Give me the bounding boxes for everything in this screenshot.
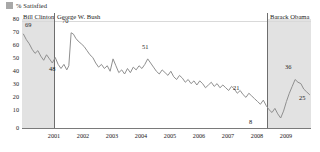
- x-tick: 2008: [251, 132, 263, 139]
- y-tick: 0: [2, 125, 19, 131]
- x-tick: 2004: [135, 132, 147, 139]
- x-tick: 2003: [106, 132, 118, 139]
- value-callout: 48: [49, 66, 55, 72]
- series-line-satisfied: [22, 19, 311, 129]
- value-callout: 70: [62, 18, 68, 24]
- y-tick: 20: [2, 94, 19, 100]
- value-callout: 8: [249, 119, 252, 125]
- x-tick: 2007: [222, 132, 234, 139]
- x-axis: 2001 2002 2003 2004 2005 2006 2007 2008 …: [22, 132, 311, 144]
- x-tick: 2002: [77, 132, 89, 139]
- y-tick: 80: [2, 16, 19, 22]
- value-callout: 21: [233, 85, 239, 91]
- value-callout: 36: [285, 64, 291, 70]
- x-tick: 2006: [193, 132, 205, 139]
- x-tick: 2005: [164, 132, 176, 139]
- x-tick: 2009: [280, 132, 292, 139]
- y-tick: 50: [2, 55, 19, 61]
- x-tick: 2001: [48, 132, 60, 139]
- value-callout: 51: [142, 44, 148, 50]
- value-callout: 69: [25, 22, 31, 28]
- y-tick: 70: [2, 29, 19, 35]
- x-axis-line: [22, 128, 311, 129]
- y-tick: 40: [2, 68, 19, 74]
- satisfaction-chart: % Satisfied Bill Clinton George W. Bush …: [0, 0, 320, 152]
- y-tick: 10: [2, 107, 19, 113]
- value-callout: 25: [299, 95, 305, 101]
- y-tick: 30: [2, 81, 19, 87]
- plot-area: 694870512183625: [22, 19, 311, 129]
- y-tick: 60: [2, 42, 19, 48]
